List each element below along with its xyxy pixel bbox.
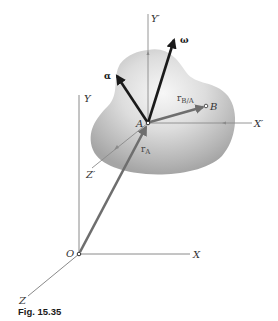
- y-axis-label: Y: [84, 93, 92, 104]
- z-axis-label: Z: [18, 295, 27, 306]
- figure-caption: Fig. 15.35: [18, 306, 62, 317]
- origin-label: O: [66, 248, 74, 259]
- alpha-label: α: [104, 71, 111, 81]
- omega-label: ω: [180, 35, 189, 45]
- y-prime-label: Y′: [151, 13, 161, 24]
- rigid-body-kinematics-diagram: Y X Z O Y′ X′ Z′ A ω α rB/A B rA Fig. 15…: [0, 0, 278, 321]
- origin-o-marker: [77, 252, 81, 256]
- point-a-label: A: [135, 118, 143, 129]
- point-a-marker: [146, 121, 150, 125]
- z-prime-label: Z′: [85, 169, 96, 180]
- x-axis-label: X: [192, 249, 201, 260]
- point-b-marker: [204, 104, 208, 108]
- x-prime-label: X′: [253, 118, 264, 129]
- point-b-label: B: [209, 101, 217, 112]
- z-axis: [28, 254, 79, 296]
